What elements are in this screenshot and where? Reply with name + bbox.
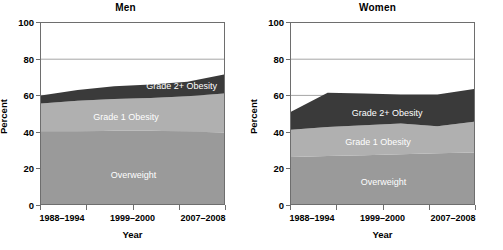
y-tick-mark-100-women	[286, 22, 290, 23]
x-tick-mark-3-men	[179, 205, 180, 210]
x-tick-mark-1-women	[336, 205, 337, 210]
y-axis-title-men: Percent	[0, 99, 9, 134]
y-tick-mark-40-men	[36, 132, 40, 133]
x-tick-mark-4-women	[475, 205, 476, 210]
x-tick-label-1-men: 1999–2000	[110, 213, 155, 223]
y-tick-mark-20-women	[286, 168, 290, 169]
y-tick-label-20-men: 20	[8, 163, 34, 174]
x-tick-mark-3-women	[429, 205, 430, 210]
x-tick-mark-1-men	[86, 205, 87, 210]
x-tick-mark-4-men	[225, 205, 226, 210]
x-axis-title-women: Year	[257, 229, 503, 240]
y-tick-mark-60-men	[36, 95, 40, 96]
x-tick-label-2-men: 2007–2008	[180, 213, 225, 223]
x-tick-label-0-women: 1988–1994	[289, 213, 334, 223]
y-tick-label-0-women: 0	[258, 200, 284, 211]
x-tick-label-2-women: 2007–2008	[430, 213, 475, 223]
x-axis-title-men: Year	[7, 229, 258, 240]
y-tick-label-100-men: 100	[8, 17, 34, 28]
y-tick-label-40-men: 40	[8, 126, 34, 137]
y-axis-title-women: Percent	[248, 99, 259, 134]
y-tick-mark-80-men	[36, 59, 40, 60]
x-tick-label-0-men: 1988–1994	[39, 213, 84, 223]
x-tick-mark-2-women	[383, 205, 384, 210]
chart-panel-women: WomenOverweightGrade 1 ObesityGrade 2+ O…	[252, 0, 503, 250]
y-tick-mark-80-women	[286, 59, 290, 60]
x-tick-mark-0-women	[290, 205, 291, 210]
y-tick-label-80-women: 80	[258, 53, 284, 64]
y-tick-label-40-women: 40	[258, 126, 284, 137]
y-tick-label-0-men: 0	[8, 200, 34, 211]
y-tick-label-60-women: 60	[258, 90, 284, 101]
x-tick-mark-0-men	[40, 205, 41, 210]
y-tick-mark-100-men	[36, 22, 40, 23]
y-tick-label-100-women: 100	[258, 17, 284, 28]
y-tick-mark-40-women	[286, 132, 290, 133]
y-tick-label-20-women: 20	[258, 163, 284, 174]
y-tick-label-60-men: 60	[8, 90, 34, 101]
y-tick-mark-20-men	[36, 168, 40, 169]
y-tick-label-80-men: 80	[8, 53, 34, 64]
y-tick-mark-60-women	[286, 95, 290, 96]
chart-panel-men: MenOverweightGrade 1 ObesityGrade 2+ Obe…	[0, 0, 251, 250]
x-tick-mark-2-men	[133, 205, 134, 210]
figure-root: MenOverweightGrade 1 ObesityGrade 2+ Obe…	[0, 0, 503, 250]
x-tick-label-1-women: 1999–2000	[360, 213, 405, 223]
